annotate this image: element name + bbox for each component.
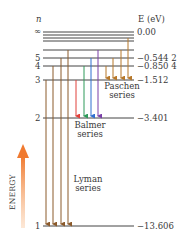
level-e-inf: 0.00 — [137, 28, 156, 37]
lyman-arrows — [46, 50, 68, 224]
lyman-label: Lyman series — [70, 175, 106, 193]
energy-axis-caption: ENERGY — [8, 174, 17, 210]
n-axis-label: n — [36, 15, 41, 24]
energy-arrow-icon — [17, 144, 29, 228]
level-e-4: −0.850 4 — [137, 62, 177, 71]
level-n-3: 3 — [35, 76, 40, 85]
level-e-2: −3.401 — [137, 114, 168, 123]
balmer-arrows — [76, 50, 98, 116]
balmer-label: Balmer series — [72, 121, 108, 139]
level-n-4: 4 — [35, 62, 40, 71]
level-n-inf: ∞ — [34, 27, 41, 36]
level-n-2: 2 — [35, 114, 40, 123]
paschen-label: Paschen series — [101, 82, 143, 100]
level-e-1: −13.606 — [137, 222, 174, 231]
level-n-1: 1 — [35, 222, 40, 231]
energy-axis-label: E (eV) — [138, 15, 165, 24]
